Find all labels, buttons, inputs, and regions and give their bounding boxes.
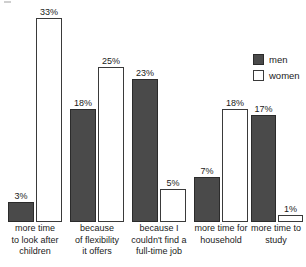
x-axis-label-line: to look after (0, 235, 70, 247)
bar-value-label: 5% (166, 178, 179, 188)
x-axis-labels: more time to look after children because… (0, 223, 306, 267)
bar-group: 17% 1% (249, 0, 305, 222)
x-axis-label-line: of flexibility (62, 235, 132, 247)
x-axis-label-line: full-time job (124, 246, 194, 258)
legend-label-women: women (269, 70, 300, 81)
bar-group: 23% 5% (130, 0, 188, 222)
plot-area: 3% 33% 18% 25% 23% (0, 0, 306, 222)
x-axis-label: more time for household (187, 223, 255, 246)
x-axis-label-line: couldn't find a (124, 235, 194, 247)
x-axis-label-line: study (246, 235, 306, 247)
bar-men[interactable] (8, 202, 34, 222)
bar-group: 7% 18% (192, 0, 250, 222)
bar-women[interactable] (36, 18, 62, 222)
bar-value-label: 18% (74, 98, 92, 108)
x-axis-label-line: more time (0, 223, 70, 235)
legend-item-women[interactable]: women (253, 68, 300, 82)
legend: men women (253, 52, 300, 84)
legend-label-men: men (269, 54, 287, 65)
bar-men[interactable] (132, 79, 158, 222)
x-axis-label-line: because (62, 223, 132, 235)
legend-item-men[interactable]: men (253, 52, 300, 66)
x-axis-label-line: more time to (246, 223, 306, 235)
x-axis-label: more time to look after children (0, 223, 70, 258)
bar-women[interactable] (278, 215, 303, 222)
bar-value-label: 7% (200, 166, 213, 176)
bar-value-label: 18% (226, 98, 244, 108)
bar-men[interactable] (251, 115, 276, 222)
bar-men[interactable] (70, 109, 96, 222)
x-axis-label: more time to study (246, 223, 306, 246)
bar-women[interactable] (160, 189, 186, 222)
x-axis-label-line: household (187, 235, 255, 247)
bar-group: 3% 33% (6, 0, 64, 222)
x-axis-label-line: it offers (62, 246, 132, 258)
bar-value-label: 3% (14, 191, 27, 201)
x-axis-label: because I couldn't find a full-time job (124, 223, 194, 258)
x-axis-label-line: children (0, 246, 70, 258)
x-axis-label: because of flexibility it offers (62, 223, 132, 258)
bar-chart: 3% 33% 18% 25% 23% (0, 0, 306, 267)
bar-value-label: 1% (284, 204, 297, 214)
legend-swatch-women-icon (253, 70, 264, 81)
bar-value-label: 23% (136, 68, 154, 78)
bar-group: 18% 25% (68, 0, 126, 222)
bar-value-label: 25% (102, 56, 120, 66)
bar-value-label: 17% (254, 104, 272, 114)
x-axis-label-line: because I (124, 223, 194, 235)
bar-men[interactable] (194, 177, 220, 222)
bar-value-label: 33% (40, 7, 58, 17)
legend-swatch-men-icon (253, 54, 264, 65)
bar-women[interactable] (222, 109, 248, 222)
bar-women[interactable] (98, 67, 124, 222)
x-axis-label-line: more time for (187, 223, 255, 235)
